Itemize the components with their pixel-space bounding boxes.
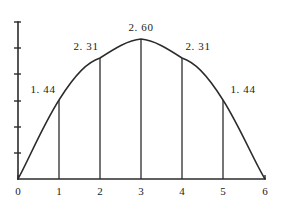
x-axis-label-2: 2 — [97, 185, 103, 197]
curve-with-ordinates-figure: 1. 44 2. 31 2. 60 2. 31 1. 44 0 1 2 3 4 … — [0, 0, 282, 205]
ordinate-lines — [59, 39, 223, 179]
value-label-x5: 1. 44 — [231, 83, 256, 95]
x-axis-label-6: 6 — [262, 185, 268, 197]
value-label-x4: 2. 31 — [186, 40, 211, 52]
x-axis-label-1: 1 — [56, 185, 62, 197]
value-label-x3: 2. 60 — [129, 21, 154, 33]
x-axis-label-0: 0 — [15, 185, 21, 197]
x-axis-label-3: 3 — [138, 185, 144, 197]
value-label-x1: 1. 44 — [31, 83, 56, 95]
x-axis-label-5: 5 — [220, 185, 226, 197]
x-axis-label-4: 4 — [179, 185, 185, 197]
value-label-x2: 2. 31 — [74, 40, 99, 52]
